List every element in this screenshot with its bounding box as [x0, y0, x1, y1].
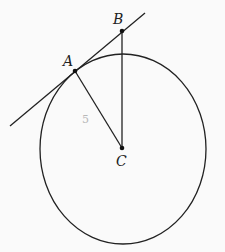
- geometry-diagram: [0, 0, 225, 252]
- point-b-dot: [120, 29, 125, 34]
- point-c-dot: [120, 146, 125, 151]
- point-a-dot: [73, 69, 78, 74]
- point-c-label: C: [116, 154, 127, 168]
- point-a-label: A: [63, 54, 73, 68]
- tangent-line: [10, 13, 145, 126]
- segment-ac: [75, 71, 122, 148]
- point-b-label: B: [113, 12, 123, 26]
- segment-ac-length-label: 5: [82, 114, 89, 125]
